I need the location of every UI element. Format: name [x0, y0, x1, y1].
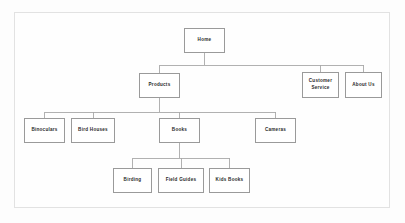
node-products[interactable]: Products — [139, 73, 180, 98]
node-binoculars-label: Binoculars — [29, 127, 59, 134]
node-about-us[interactable]: About Us — [345, 72, 382, 98]
node-kids-books[interactable]: Kids Books — [209, 168, 250, 193]
node-birding-label: Birding — [122, 177, 144, 184]
node-bird-houses[interactable]: Bird Houses — [71, 118, 115, 143]
node-about-us-label: About Us — [350, 82, 376, 89]
node-field-guides-label: Field Guides — [164, 177, 199, 184]
node-cameras[interactable]: Cameras — [255, 118, 296, 143]
node-customer-service[interactable]: Customer Service — [302, 72, 339, 98]
node-binoculars[interactable]: Binoculars — [24, 118, 65, 143]
node-kids-books-label: Kids Books — [214, 177, 246, 184]
node-products-label: Products — [147, 82, 173, 89]
node-bird-houses-label: Bird Houses — [76, 127, 110, 134]
node-home-label: Home — [196, 37, 214, 44]
sitemap-diagram: Home Products Customer Service About Us … — [0, 0, 405, 223]
node-customer-service-label: Customer Service — [307, 78, 334, 91]
node-birding[interactable]: Birding — [113, 168, 152, 193]
node-cameras-label: Cameras — [263, 127, 288, 134]
node-field-guides[interactable]: Field Guides — [158, 168, 204, 193]
node-books[interactable]: Books — [159, 118, 200, 143]
node-books-label: Books — [170, 127, 189, 134]
node-home[interactable]: Home — [184, 28, 225, 53]
